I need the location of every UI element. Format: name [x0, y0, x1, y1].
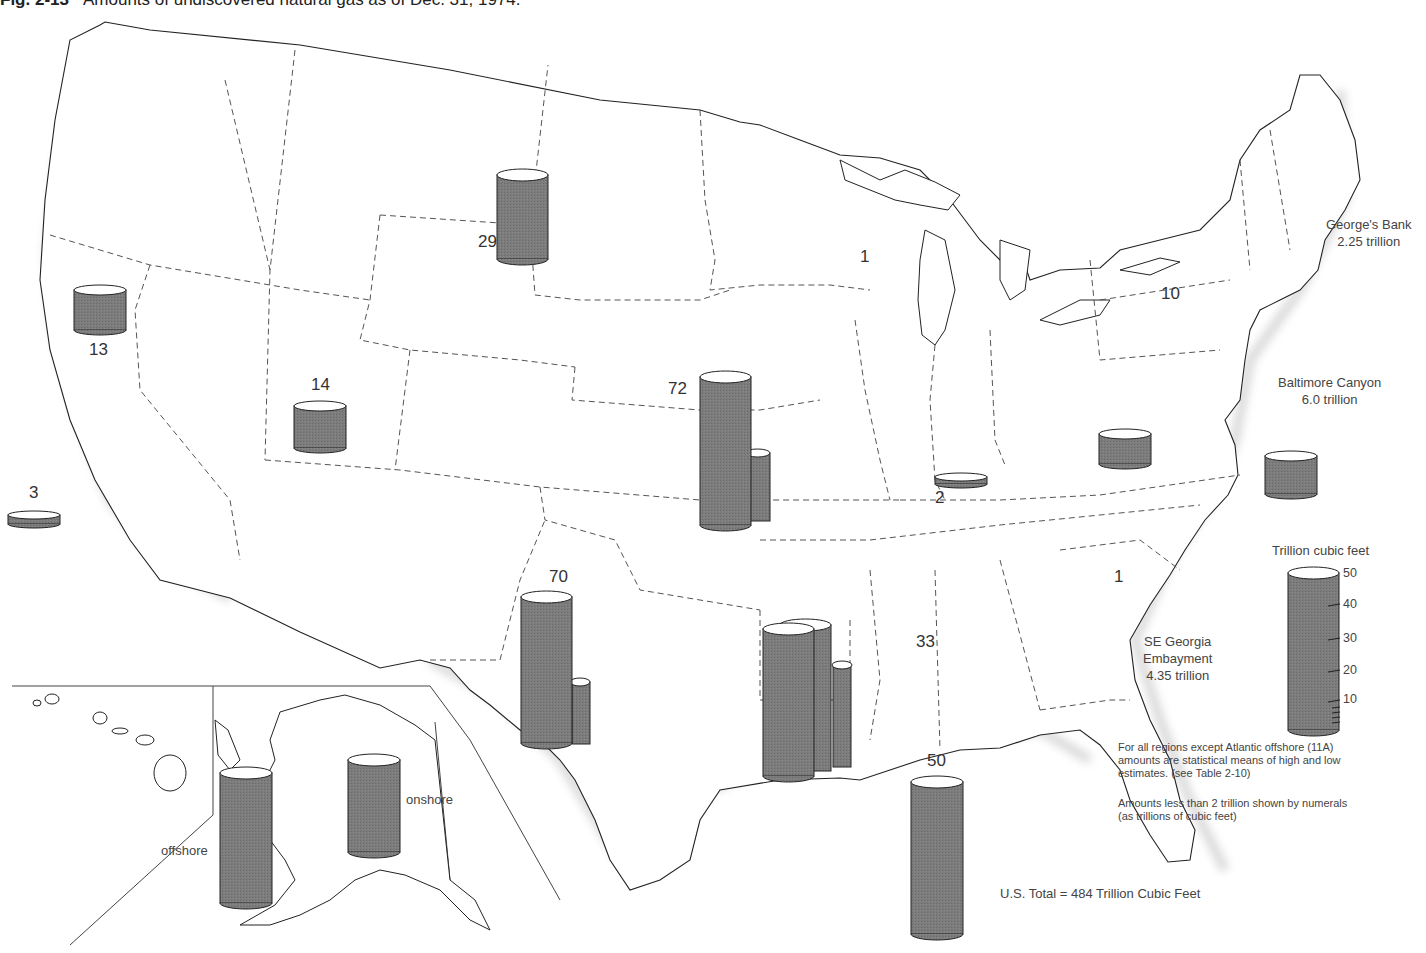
label-utah-14: 14: [311, 375, 330, 395]
cylinder-west-virginia: [1099, 429, 1151, 469]
us-total: U.S. Total = 484 Trillion Cubic Feet: [1000, 886, 1200, 901]
scale-title: Trillion cubic feet: [1272, 542, 1369, 559]
hawaii-islands: [33, 694, 186, 791]
baltimore-canyon-note: Baltimore Canyon 6.0 trillion: [1278, 374, 1381, 408]
georges-bank-name: George's Bank: [1326, 216, 1412, 233]
se-georgia-note: SE Georgia Embayment 4.35 trillion: [1143, 633, 1212, 684]
footnote-numerals: Amounts less than 2 trillion shown by nu…: [1118, 797, 1347, 823]
cylinder-gulf-offshore: [911, 776, 963, 940]
georges-bank-note: George's Bank 2.25 trillion: [1326, 216, 1412, 250]
scale-cylinder: [1288, 567, 1340, 736]
cylinder-california: [74, 285, 126, 335]
cylinder-louisiana-3: [832, 661, 852, 767]
label-gulf-onshore-33: 33: [916, 632, 935, 652]
cylinder-illinois: [935, 473, 987, 488]
cylinder-alaska-offshore: [220, 767, 272, 909]
scale-tick-10: 10: [1343, 692, 1357, 706]
baltimore-canyon-value: 6.0 trillion: [1278, 391, 1381, 408]
scale-tick-50: 50: [1343, 566, 1357, 580]
cylinder-utah: [294, 401, 346, 453]
label-kansas-72: 72: [668, 379, 687, 399]
label-southeast-1: 1: [1114, 567, 1123, 587]
cylinder-kansas: [700, 371, 751, 531]
cylinder-west-texas: [521, 591, 572, 749]
label-texas-70: 70: [549, 567, 568, 587]
scale-tick-40: 40: [1343, 597, 1357, 611]
georges-bank-value: 2.25 trillion: [1326, 233, 1412, 250]
baltimore-canyon-name: Baltimore Canyon: [1278, 374, 1381, 391]
cylinder-texas-small: [570, 678, 590, 744]
footnote-statistical-means: For all regions except Atlantic offshore…: [1118, 741, 1341, 780]
cylinder-louisiana-1: [763, 623, 814, 782]
cylinder-alaska-onshore: [348, 754, 400, 858]
cylinder-pacific-offshore: [8, 511, 60, 528]
label-illinois-2: 2: [935, 488, 944, 508]
label-california-13: 13: [89, 340, 108, 360]
scale-tick-20: 20: [1343, 663, 1357, 677]
se-georgia-value: 4.35 trillion: [1143, 667, 1212, 684]
label-pacific-3: 3: [29, 483, 38, 503]
cylinder-montana: [497, 169, 548, 265]
se-georgia-line1: SE Georgia: [1143, 633, 1212, 650]
se-georgia-line2: Embayment: [1143, 650, 1212, 667]
cylinder-baltimore-canyon: [1265, 451, 1317, 499]
label-gulf-offshore-50: 50: [927, 751, 946, 771]
label-alaska-onshore: onshore: [406, 791, 453, 808]
label-midwest-1: 1: [860, 247, 869, 267]
scale-tick-30: 30: [1343, 631, 1357, 645]
label-appalachian-10: 10: [1161, 284, 1180, 304]
label-alaska-offshore: offshore: [161, 842, 208, 859]
label-montana-29: 29: [478, 232, 497, 252]
